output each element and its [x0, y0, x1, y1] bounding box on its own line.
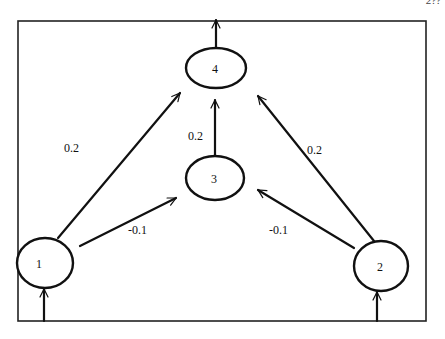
edge-1-to-4 [58, 93, 180, 238]
node-3: 3 [186, 156, 244, 200]
node-4-label: 4 [212, 62, 218, 76]
weight-label-2-3: -0.1 [269, 223, 288, 237]
node-4: 4 [186, 48, 246, 88]
node-2-label: 2 [377, 260, 383, 274]
node-2: 2 [354, 241, 408, 291]
edge-1-to-3 [80, 198, 176, 246]
weight-label-2-4: 0.2 [307, 143, 322, 157]
node-3-label: 3 [211, 172, 217, 186]
weight-label-3-4: 0.2 [188, 129, 203, 143]
weight-label-1-3: -0.1 [128, 223, 147, 237]
weight-label-1-4: 0.2 [64, 141, 79, 155]
node-1-label: 1 [36, 257, 42, 271]
network-diagram: 1 2 3 4 0.2 -0.1 0.2 0.2 -0.1 [0, 0, 445, 339]
edge-2-to-4 [258, 96, 374, 241]
node-1: 1 [17, 238, 73, 288]
